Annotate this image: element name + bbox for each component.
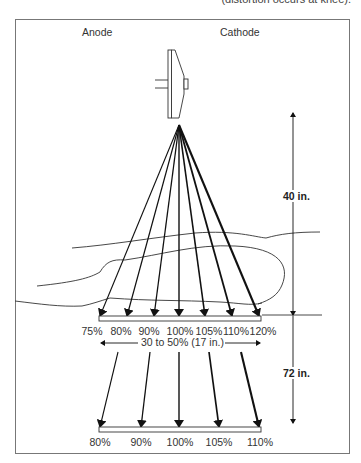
pct-72in-item: 100%: [167, 436, 194, 448]
cathode-label: Cathode: [220, 26, 260, 38]
beam-arrows-72in: [100, 352, 259, 427]
distance-40in-label: 40 in.: [282, 190, 311, 202]
film-40in: [99, 316, 261, 321]
xray-tube-icon: [155, 50, 188, 118]
pct-40in-item: 120%: [250, 325, 277, 337]
distance-72in-label: 72 in.: [282, 367, 311, 379]
film-72in: [99, 427, 261, 432]
patient-outline: [15, 232, 322, 315]
pct-40in-item: 80%: [110, 325, 131, 337]
pct-40in-item: 90%: [138, 325, 159, 337]
pct-40in-item: 105%: [196, 325, 223, 337]
pct-40in-item: 100%: [167, 325, 194, 337]
anode-label: Anode: [82, 26, 112, 38]
pct-40in-item: 75%: [81, 325, 102, 337]
field-width-label: 30 to 50% (17 in.): [140, 336, 225, 348]
pct-40in-item: 110%: [223, 325, 249, 337]
pct-72in-item: 80%: [89, 436, 110, 448]
pct-72in-item: 105%: [206, 436, 233, 448]
beam-arrows-40in: [100, 125, 259, 316]
pct-72in-item: 110%: [247, 436, 273, 448]
pct-72in-item: 90%: [130, 436, 151, 448]
heel-effect-diagram: [0, 0, 361, 463]
